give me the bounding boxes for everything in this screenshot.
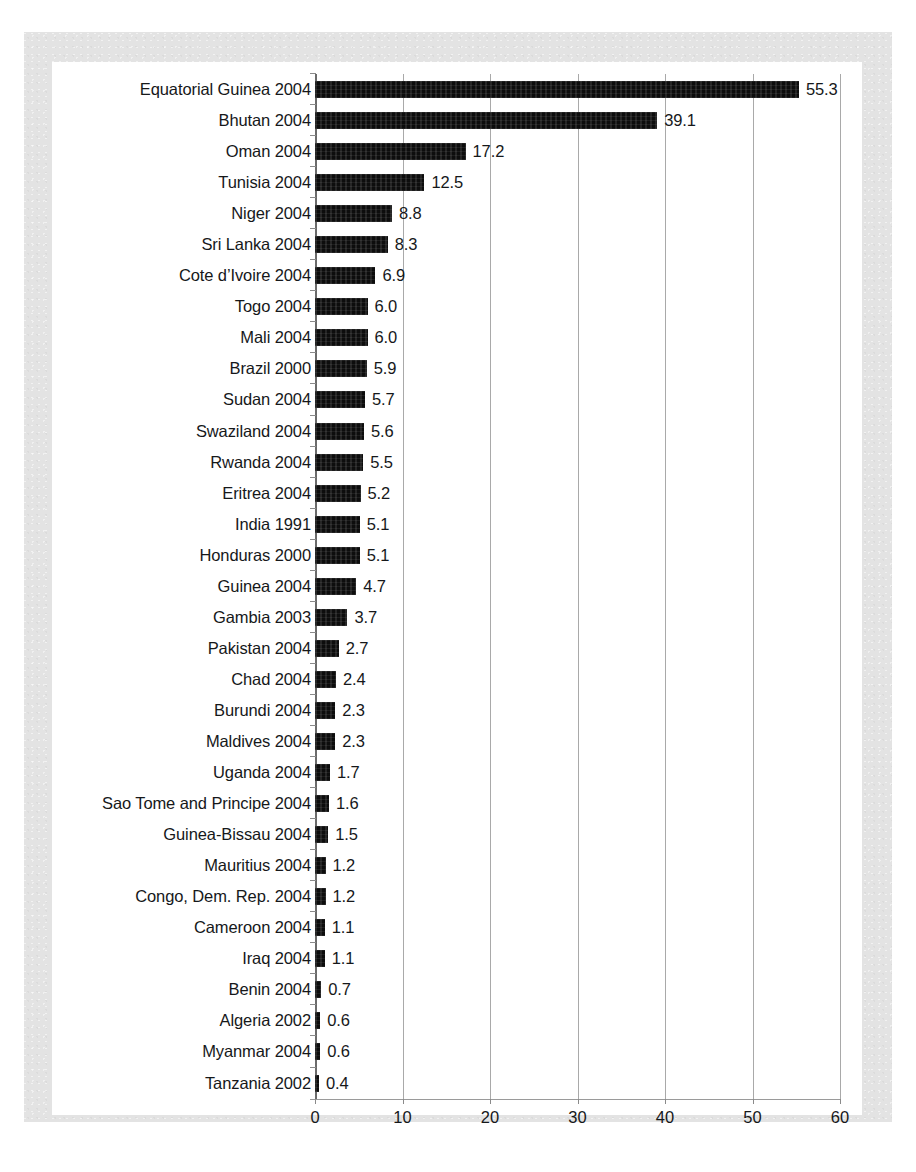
x-axis-tick bbox=[665, 1099, 666, 1104]
bar-row: Guinea 20044.7 bbox=[52, 571, 862, 602]
bar bbox=[315, 516, 360, 533]
bar-container: 1.2 bbox=[315, 881, 355, 912]
bar-value-label: 5.7 bbox=[372, 390, 395, 409]
bar bbox=[315, 1043, 320, 1060]
bar-container: 5.9 bbox=[315, 353, 396, 384]
category-label: Chad 2004 bbox=[231, 670, 311, 689]
page-root: Equatorial Guinea 200455.3Bhutan 200439.… bbox=[0, 0, 916, 1172]
bar-row: Iraq 20041.1 bbox=[52, 943, 862, 974]
x-axis-tick bbox=[753, 1099, 754, 1104]
bar bbox=[315, 609, 347, 626]
category-label: Togo 2004 bbox=[235, 297, 311, 316]
category-label: Bhutan 2004 bbox=[219, 111, 312, 130]
bar-row: Swaziland 20045.6 bbox=[52, 416, 862, 447]
category-label: Brazil 2000 bbox=[230, 359, 311, 378]
bar-value-label: 5.2 bbox=[368, 484, 391, 503]
bar-value-label: 2.3 bbox=[342, 732, 365, 751]
bar bbox=[315, 485, 361, 502]
category-label: Niger 2004 bbox=[231, 204, 311, 223]
bar bbox=[315, 795, 329, 812]
bar-row: Tunisia 200412.5 bbox=[52, 167, 862, 198]
category-label: Pakistan 2004 bbox=[208, 639, 311, 658]
bar-container: 17.2 bbox=[315, 136, 504, 167]
bar bbox=[315, 81, 799, 98]
bar bbox=[315, 702, 335, 719]
bar-rows: Equatorial Guinea 200455.3Bhutan 200439.… bbox=[52, 74, 862, 1099]
bar-value-label: 1.7 bbox=[337, 763, 360, 782]
category-label: Maldives 2004 bbox=[206, 732, 311, 751]
bar-value-label: 1.6 bbox=[336, 794, 359, 813]
bar-container: 2.3 bbox=[315, 695, 365, 726]
bar bbox=[315, 391, 365, 408]
bar bbox=[315, 671, 336, 688]
bar bbox=[315, 143, 466, 160]
x-tick-label: 60 bbox=[831, 1108, 849, 1127]
bar-row: Mauritius 20041.2 bbox=[52, 850, 862, 881]
bar bbox=[315, 112, 657, 129]
bar-value-label: 4.7 bbox=[363, 577, 386, 596]
bar bbox=[315, 423, 364, 440]
bar-value-label: 1.5 bbox=[335, 825, 358, 844]
bar-value-label: 6.9 bbox=[382, 266, 405, 285]
category-label: Oman 2004 bbox=[226, 142, 311, 161]
x-tick-label: 40 bbox=[656, 1108, 674, 1127]
bar-row: Oman 200417.2 bbox=[52, 136, 862, 167]
bar-container: 5.1 bbox=[315, 509, 389, 540]
bar-container: 0.4 bbox=[315, 1068, 349, 1099]
bar-value-label: 5.9 bbox=[374, 359, 397, 378]
bar-value-label: 0.7 bbox=[328, 980, 351, 999]
bar-container: 8.8 bbox=[315, 198, 422, 229]
category-label: Myanmar 2004 bbox=[202, 1042, 311, 1061]
bar-container: 1.1 bbox=[315, 943, 354, 974]
bar bbox=[315, 857, 326, 874]
x-tick-label: 50 bbox=[743, 1108, 761, 1127]
bar-container: 6.9 bbox=[315, 260, 405, 291]
bar bbox=[315, 360, 367, 377]
bar-value-label: 1.1 bbox=[332, 949, 355, 968]
category-label: Swaziland 2004 bbox=[196, 422, 311, 441]
bar-row: Niger 20048.8 bbox=[52, 198, 862, 229]
bar-container: 0.7 bbox=[315, 974, 351, 1005]
bar-value-label: 1.2 bbox=[333, 887, 356, 906]
category-label: Tunisia 2004 bbox=[218, 173, 311, 192]
category-label: Mali 2004 bbox=[240, 328, 311, 347]
category-label: Guinea-Bissau 2004 bbox=[163, 825, 311, 844]
bar-container: 8.3 bbox=[315, 229, 417, 260]
bar-row: Sri Lanka 20048.3 bbox=[52, 229, 862, 260]
bar-row: Brazil 20005.9 bbox=[52, 353, 862, 384]
bar bbox=[315, 826, 328, 843]
bar-value-label: 5.1 bbox=[367, 515, 390, 534]
bar-container: 5.5 bbox=[315, 447, 393, 478]
bar bbox=[315, 1075, 319, 1092]
bar-container: 5.7 bbox=[315, 384, 395, 415]
bar-row: Sao Tome and Principe 20041.6 bbox=[52, 788, 862, 819]
bar-value-label: 55.3 bbox=[806, 80, 838, 99]
category-label: India 1991 bbox=[235, 515, 311, 534]
bar-container: 5.2 bbox=[315, 478, 390, 509]
category-label: Burundi 2004 bbox=[214, 701, 311, 720]
x-axis-tick bbox=[315, 1099, 316, 1104]
bar-container: 2.7 bbox=[315, 633, 368, 664]
category-label: Uganda 2004 bbox=[213, 763, 311, 782]
category-label: Eritrea 2004 bbox=[222, 484, 311, 503]
bar-row: Sudan 20045.7 bbox=[52, 384, 862, 415]
bar-row: Chad 20042.4 bbox=[52, 664, 862, 695]
bar bbox=[315, 981, 321, 998]
bar-container: 0.6 bbox=[315, 1036, 350, 1067]
category-label: Tanzania 2002 bbox=[205, 1074, 311, 1093]
category-label: Rwanda 2004 bbox=[210, 453, 311, 472]
category-label: Equatorial Guinea 2004 bbox=[140, 80, 311, 99]
bar bbox=[315, 888, 326, 905]
x-tick-label: 10 bbox=[393, 1108, 411, 1127]
category-label: Guinea 2004 bbox=[218, 577, 311, 596]
bar bbox=[315, 578, 356, 595]
bar-container: 4.7 bbox=[315, 571, 386, 602]
bar-row: Gambia 20033.7 bbox=[52, 602, 862, 633]
bar-value-label: 17.2 bbox=[473, 142, 505, 161]
bar-container: 3.7 bbox=[315, 602, 377, 633]
bar-value-label: 5.5 bbox=[370, 453, 393, 472]
bar-value-label: 6.0 bbox=[375, 297, 398, 316]
chart-panel: Equatorial Guinea 200455.3Bhutan 200439.… bbox=[52, 62, 862, 1115]
bar-row: Maldives 20042.3 bbox=[52, 726, 862, 757]
bar bbox=[315, 764, 330, 781]
